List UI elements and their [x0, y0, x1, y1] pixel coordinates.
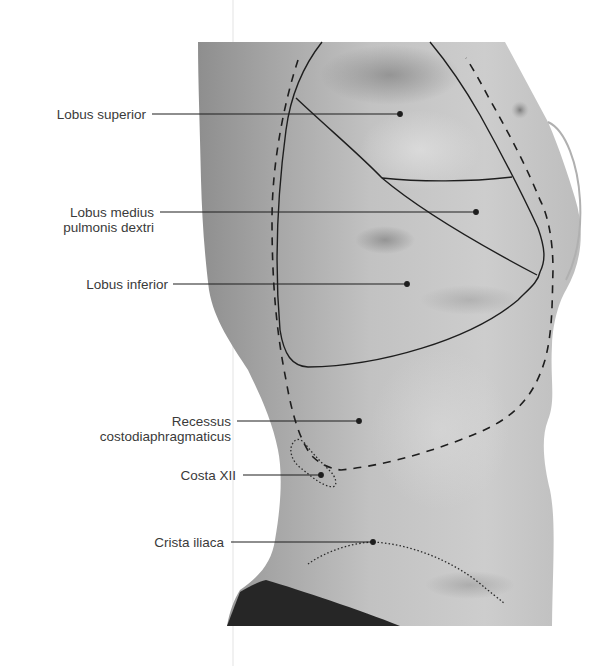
shadow-hip [425, 571, 515, 599]
label-lobus-medius: Lobus medius pulmonis dextri [63, 205, 154, 235]
label-text: Lobus superior [57, 107, 146, 122]
label-text: Lobus inferior [86, 277, 168, 292]
label-text: Recessus [100, 414, 231, 429]
label-crista-iliaca: Crista iliaca [154, 535, 224, 550]
label-text: pulmonis dextri [63, 220, 154, 235]
highlight-flank [370, 350, 510, 510]
label-lobus-superior: Lobus superior [57, 107, 146, 122]
label-text: Lobus medius [63, 205, 154, 220]
highlight-chest [360, 110, 480, 190]
label-text: Costa XII [180, 468, 236, 483]
label-text: costodiaphragmaticus [100, 429, 231, 444]
label-lobus-inferior: Lobus inferior [86, 277, 168, 292]
label-costa-xii: Costa XII [180, 468, 236, 483]
label-recessus: Recessus costodiaphragmaticus [100, 414, 231, 444]
label-text: Crista iliaca [154, 535, 224, 550]
nipple [511, 101, 529, 119]
anatomy-figure [0, 0, 601, 666]
shadow-rib [355, 226, 415, 254]
